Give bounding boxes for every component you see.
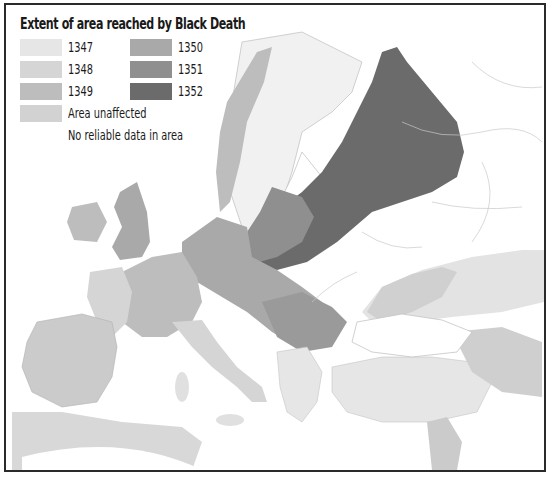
- legend-swatch-1350: [130, 39, 172, 56]
- legend-label-1351: 1351: [178, 61, 203, 77]
- legend-item-1348: 1348: [20, 59, 100, 79]
- legend-item-1352: 1352: [130, 81, 210, 101]
- legend-item-no-data: No reliable data in area: [68, 125, 216, 145]
- region-hungary: [262, 292, 347, 352]
- region-sicily: [216, 414, 244, 426]
- region-levant: [427, 417, 462, 470]
- legend-item-1350: 1350: [130, 37, 210, 57]
- legend-label-1348: 1348: [68, 61, 93, 77]
- legend-swatch-1349: [20, 83, 62, 100]
- region-anatolia: [332, 357, 492, 422]
- region-britain: [112, 182, 150, 260]
- region-ireland: [67, 202, 107, 242]
- legend-item-unaffected: Area unaffected: [20, 103, 169, 123]
- legend-swatch-1347: [20, 39, 62, 56]
- map-frame: Extent of area reached by Black Death 13…: [4, 3, 546, 472]
- region-sardinia: [175, 372, 189, 402]
- legend-swatch-1351: [130, 61, 172, 78]
- legend-swatch-unaffected: [20, 105, 62, 122]
- black-sea: [352, 314, 472, 357]
- legend-label-unaffected: Area unaffected: [68, 105, 147, 121]
- region-iberia: [22, 314, 117, 407]
- legend-grid: 1347 1348 1349 Area unaffected No reliab…: [20, 37, 280, 157]
- legend-label-1347: 1347: [68, 39, 93, 55]
- legend-label-1352: 1352: [178, 83, 203, 99]
- region-greece: [277, 347, 322, 422]
- legend-swatch-1352: [130, 83, 172, 100]
- legend-title: Extent of area reached by Black Death: [20, 15, 233, 33]
- legend-item-1349: 1349: [20, 81, 100, 101]
- map-legend: Extent of area reached by Black Death 13…: [20, 15, 280, 157]
- legend-label-no-data: No reliable data in area: [68, 127, 183, 143]
- legend-label-1349: 1349: [68, 83, 93, 99]
- legend-item-1351: 1351: [130, 59, 210, 79]
- legend-swatch-1348: [20, 61, 62, 78]
- legend-label-1350: 1350: [178, 39, 203, 55]
- legend-item-1347: 1347: [20, 37, 100, 57]
